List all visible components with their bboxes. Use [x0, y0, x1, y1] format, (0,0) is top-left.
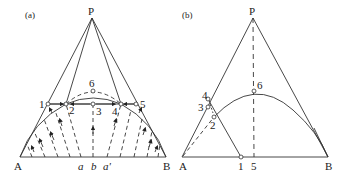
label-1-b: 1 — [238, 160, 244, 172]
label-4-b: 4 — [202, 89, 208, 101]
points-a — [46, 89, 138, 106]
label-6-a: 6 — [89, 77, 95, 89]
vertex-b-a: B — [163, 160, 170, 172]
base-label-a-prime: a' — [103, 160, 112, 172]
label-3-b: 3 — [198, 101, 204, 113]
dashed-paths — [27, 104, 160, 157]
point-4 — [119, 102, 123, 106]
vertex-p-a: P — [88, 5, 94, 17]
base-label-b: b — [91, 160, 97, 172]
vertex-a-a: A — [14, 160, 22, 172]
point-1 — [46, 102, 50, 106]
triangle-b — [182, 18, 328, 157]
vertex-p-b: P — [249, 5, 255, 17]
label-6-b: 6 — [257, 79, 263, 91]
panel-label-b: (b) — [182, 10, 193, 20]
ternary-diagrams: (a) P A B 1 2 3 4 5 6 a b a' (b) P A B 1 — [0, 0, 345, 178]
point-6 — [91, 89, 95, 93]
label-5-a: 5 — [140, 98, 146, 110]
point-2 — [64, 102, 68, 106]
label-2-a: 2 — [69, 104, 75, 116]
label-3-a: 3 — [96, 105, 102, 117]
label-2-b: 2 — [210, 119, 216, 131]
dashed-p-5 — [253, 18, 254, 157]
point-1-b — [239, 155, 243, 159]
label-1-a: 1 — [39, 98, 45, 110]
panel-label-a: (a) — [25, 10, 35, 20]
label-5-b: 5 — [251, 160, 257, 172]
base-label-a: a — [78, 160, 84, 172]
line-b-extra — [314, 128, 328, 157]
point-5 — [134, 102, 138, 106]
point-3 — [91, 102, 95, 106]
vertex-a-b: A — [179, 160, 187, 172]
label-4-a: 4 — [112, 105, 118, 117]
point-6-b — [252, 89, 256, 93]
point-3-b — [206, 105, 210, 109]
vertex-b-b: B — [325, 160, 332, 172]
line-p-4 — [92, 18, 121, 104]
